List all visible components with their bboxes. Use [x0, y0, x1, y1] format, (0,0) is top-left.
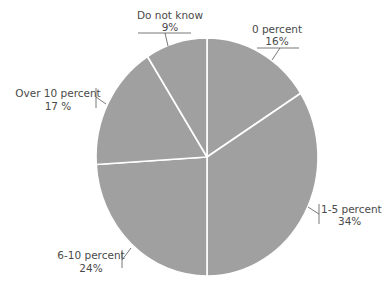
label-over-10-percent-value: 17 % — [45, 100, 72, 112]
label-1-5-percent: 1-5 percent 34% — [308, 203, 382, 227]
label-6-10-percent-value: 24% — [79, 262, 102, 274]
label-do-not-know-value: 9% — [162, 21, 179, 33]
label-6-10-percent: 6-10 percent 24% — [57, 248, 131, 274]
pie-slices — [96, 38, 318, 276]
label-do-not-know-name: Do not know — [137, 9, 204, 21]
leader-line — [308, 207, 319, 214]
leader-line — [96, 97, 106, 104]
leader-line — [272, 48, 280, 60]
label-over-10-percent: Over 10 percent 17 % — [15, 87, 106, 112]
label-1-5-percent-value: 34% — [338, 215, 361, 227]
label-1-5-percent-name: 1-5 percent — [321, 203, 382, 215]
label-0-percent-value: 16% — [265, 35, 288, 47]
leader-line — [165, 33, 168, 46]
label-0-percent-name: 0 percent — [252, 23, 302, 35]
pie-chart: Do not know 9% 0 percent 16% Over 10 per… — [0, 0, 392, 293]
label-over-10-percent-name: Over 10 percent — [15, 87, 101, 99]
label-6-10-percent-name: 6-10 percent — [57, 249, 124, 261]
